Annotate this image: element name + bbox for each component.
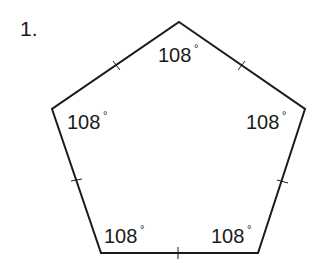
svg-text:108: 108: [67, 111, 100, 133]
svg-text:108: 108: [158, 44, 191, 66]
svg-text:°: °: [103, 109, 107, 121]
angle-label-right: 108 °: [246, 109, 286, 133]
svg-text:108: 108: [104, 225, 137, 247]
angle-label-bottom-left: 108 °: [104, 223, 144, 247]
svg-text:°: °: [194, 42, 198, 54]
pentagon-diagram: 1. 108 ° 108 ° 108 ° 108 ° 108 °: [0, 0, 323, 263]
angle-label-bottom-right: 108 °: [211, 223, 251, 247]
svg-text:°: °: [282, 109, 286, 121]
svg-text:°: °: [247, 223, 251, 235]
angle-label-top: 108 °: [158, 42, 198, 66]
angle-label-left: 108 °: [67, 109, 107, 133]
svg-text:108: 108: [246, 111, 279, 133]
svg-text:108: 108: [211, 225, 244, 247]
svg-text:°: °: [140, 223, 144, 235]
problem-number: 1.: [20, 17, 38, 40]
